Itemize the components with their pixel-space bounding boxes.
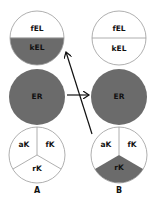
column-label-b: B <box>116 186 122 195</box>
diagram-canvas: fEL kEL ER aK fK rK A fEL kEL ER <box>0 0 158 206</box>
fk-label-a: fK <box>45 140 55 149</box>
er-label-a: ER <box>32 92 43 101</box>
fk-label-b: fK <box>127 140 137 149</box>
er-circle-a: ER <box>9 69 65 125</box>
ak-label-b: aK <box>101 140 113 149</box>
column-a: fEL kEL ER aK fK rK A <box>9 11 65 195</box>
er-circle-b: ER <box>91 69 147 125</box>
bottom-circle-a: aK fK rK <box>9 127 65 183</box>
column-label-a: A <box>34 186 41 195</box>
bottom-circle-b: aK fK rK <box>91 127 147 183</box>
rk-label-a: rK <box>32 164 43 173</box>
ak-label-a: aK <box>19 140 31 149</box>
fel-label-a: fEL <box>30 24 43 33</box>
column-b: fEL kEL ER aK fK rK B <box>91 11 147 195</box>
fel-label-b: fEL <box>112 24 125 33</box>
kel-label-a: kEL <box>30 43 45 52</box>
top-circle-a: fEL kEL <box>10 11 64 65</box>
top-circle-b: fEL kEL <box>92 11 146 65</box>
rk-label-b: rK <box>114 163 125 172</box>
arrow-up-left-icon <box>66 52 92 134</box>
er-label-b: ER <box>114 92 125 101</box>
kel-label-b: kEL <box>112 44 127 53</box>
